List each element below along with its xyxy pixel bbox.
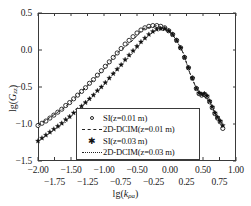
x-tick-label-major: 0.50 [195,165,211,175]
x-tick-label-major: 1.00 [228,165,244,175]
legend-item-si-003: ✱ SI(z=0.03 m) [77,135,199,147]
x-tick-label-minor: −1.25 [77,177,98,187]
y-axis-title: lg(Gzz) [7,85,19,112]
y-tick-label: 0.0 [0,45,32,55]
x-tick-label-major: −1.50 [61,165,82,175]
open-circle-icon [81,112,103,123]
x-tick-label-major: −0.50 [127,165,148,175]
x-tick-label-minor: 0.75 [212,177,228,187]
x-tick-label-minor: −1.75 [44,177,65,187]
legend-item-dcim-003: 2D-DCIM(z=0.03 m) [77,147,199,159]
x-axis-title: lg(kρa) [0,188,251,200]
legend-box: SI(z=0.01 m) 2D-DCIM(z=0.01 m) ✱ SI(z=0.… [76,108,200,160]
dashed-line-icon [81,124,103,135]
x-tick-label-major: −1.00 [94,165,115,175]
legend-label: SI(z=0.01 m) [103,113,147,123]
legend-label: 2D-DCIM(z=0.01 m) [103,124,175,134]
legend-label: 2D-DCIM(z=0.03 m) [103,147,175,157]
legend-item-si-001: SI(z=0.01 m) [77,112,199,124]
x-tick-label-major: −2.00 [28,165,49,175]
figure-container: 0.50.0−0.5−1.0−1.5 −2.00−1.50−1.00−0.500… [0,0,251,206]
x-tick-label-major: 0.00 [162,165,178,175]
x-tick-label-minor: −0.25 [143,177,164,187]
chart-canvas [0,0,251,206]
filled-star-icon: ✱ [81,135,103,146]
y-tick-label: 0.5 [0,8,32,18]
legend-item-dcim-001: 2D-DCIM(z=0.01 m) [77,124,199,136]
x-tick-label-minor: −0.75 [110,177,131,187]
dotted-line-icon [81,147,103,158]
legend-label: SI(z=0.03 m) [103,136,147,146]
y-tick-label: −1.0 [0,119,32,129]
x-tick-label-minor: 0.25 [179,177,195,187]
